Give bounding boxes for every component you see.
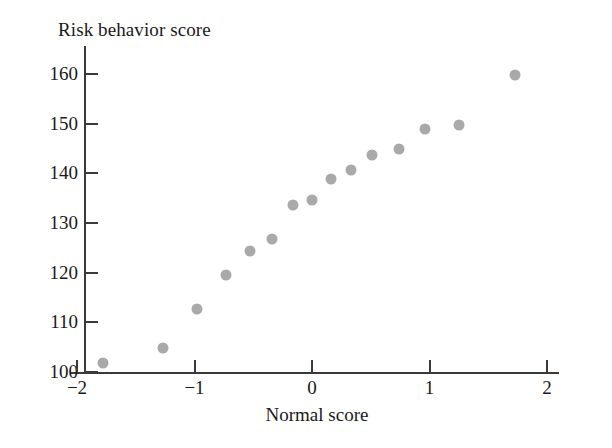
y-tick-label-wrap: 130 (26, 213, 78, 233)
y-tick-label-wrap: 160 (26, 64, 78, 84)
x-tick--2 (76, 360, 78, 372)
x-tick-label-wrap: −2 (57, 378, 97, 402)
data-point (345, 165, 356, 176)
normal-probability-plot: Risk behavior score 10011012013014015016… (0, 0, 612, 448)
y-tick-label-wrap: 150 (26, 114, 78, 134)
y-tick-label-wrap: 120 (26, 263, 78, 283)
y-tick-label: 120 (34, 263, 78, 282)
x-tick-label-wrap: −1 (175, 378, 215, 402)
x-tick-label-wrap: 0 (292, 378, 332, 402)
x-tick-label: −2 (57, 378, 97, 399)
x-tick-0 (311, 360, 313, 372)
data-point (393, 144, 404, 155)
x-axis-label: Normal score (0, 404, 612, 426)
y-tick-label: 130 (34, 213, 78, 232)
data-point (157, 343, 168, 354)
x-tick-label-wrap: 1 (410, 378, 450, 402)
x-tick-label: 0 (292, 378, 332, 399)
y-tick-120 (86, 272, 98, 274)
y-tick-150 (86, 123, 98, 125)
x-tick-label: −1 (175, 378, 215, 399)
data-point (510, 69, 521, 80)
y-tick-label-wrap: 140 (26, 163, 78, 183)
data-point (191, 304, 202, 315)
x-axis-line (70, 372, 559, 374)
x-tick-label: 2 (527, 378, 567, 399)
y-tick-160 (86, 73, 98, 75)
data-point (288, 200, 299, 211)
data-point (419, 124, 430, 135)
data-point (267, 233, 278, 244)
data-point (97, 358, 108, 369)
y-tick-100 (86, 371, 98, 373)
data-point (244, 245, 255, 256)
data-point (221, 269, 232, 280)
x-tick-2 (546, 360, 548, 372)
data-point (366, 150, 377, 161)
y-tick-110 (86, 321, 98, 323)
y-tick-label: 150 (34, 114, 78, 133)
data-point (307, 195, 318, 206)
data-point (453, 120, 464, 131)
data-point (325, 174, 336, 185)
y-tick-label-wrap: 110 (26, 312, 78, 332)
y-tick-140 (86, 172, 98, 174)
x-tick-label-wrap: 2 (527, 378, 567, 402)
y-tick-label: 160 (34, 64, 78, 83)
y-tick-label: 140 (34, 163, 78, 182)
plot-area: 100110120130140150160 −2−1012 (0, 0, 612, 448)
y-tick-label: 110 (34, 312, 78, 331)
y-tick-130 (86, 222, 98, 224)
x-tick-1 (429, 360, 431, 372)
y-axis-line (84, 46, 86, 373)
x-tick-label: 1 (410, 378, 450, 399)
x-tick--1 (194, 360, 196, 372)
